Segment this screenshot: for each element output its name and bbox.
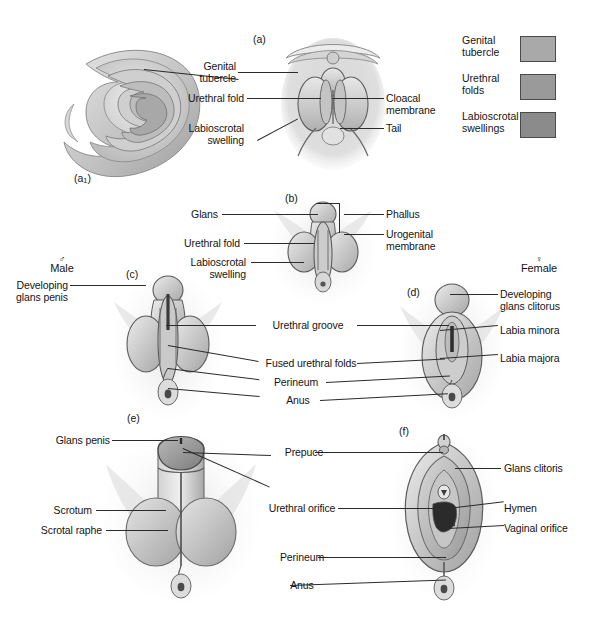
leader-line [318,557,446,558]
panel-letter-e: (e) [127,412,140,424]
bracket-line [316,203,340,204]
leader-line [96,510,166,511]
leader-line [338,508,448,509]
legend-label: Urethral folds [462,72,499,96]
anatomy-figure: (a1) (a) (b) (c) (d) (e) (f) ♂ Male ♀ Fe… [0,0,596,623]
label-perineum-ef: Perineum [272,551,332,563]
label-labia-majora: Labia majora [500,352,586,364]
legend-label: Labioscrotal swellings [462,110,519,134]
label-labioscrotal-swelling-b: Labioscrotal swelling [150,256,246,280]
illustration-panel-b [268,196,378,304]
panel-letter-a: (a) [253,33,266,45]
label-developing-glans-penis: Developing glans penis [0,279,68,303]
label-labia-minora: Labia minora [500,324,586,336]
legend-item-urethral-folds: Urethral folds [462,72,590,110]
label-hymen: Hymen [504,502,564,514]
legend-label: Genital tubercle [462,34,499,58]
leader-line [247,98,321,99]
label-tail: Tail [386,122,436,134]
label-labioscrotal-swelling-a: Labioscrotal swelling [150,122,244,146]
leader-line [251,262,304,263]
legend-swatch [520,74,556,100]
label-phallus: Phallus [386,208,448,220]
leader-line [70,285,146,286]
label-fused-urethral-folds: Fused urethral folds [252,357,370,369]
leader-line [450,294,498,295]
bracket-line [339,203,340,233]
legend-item-genital-tubercle: Genital tubercle [462,34,590,72]
leader-line [222,214,318,215]
panel-letter-d: (d) [407,286,420,298]
male-header: Male [42,262,82,274]
panel-letter-a1: (a1) [74,172,91,185]
label-urethral-fold-a: Urethral fold [158,92,244,104]
leader-line [332,98,384,99]
label-glans-clitoris: Glans clitoris [504,462,590,474]
leader-line [340,128,384,129]
label-urogenital-membrane: Urogenital membrane [386,228,472,252]
leader-line [244,243,314,244]
legend-swatch [520,112,556,138]
label-scrotum: Scrotum [26,504,92,516]
illustration-panel-e [96,424,266,604]
leader-line [455,468,501,469]
legend: Genital tubercle Urethral folds Labioscr… [462,34,590,148]
label-glans-b: Glans [160,208,218,220]
leader-line [166,325,256,326]
label-anus-ef: Anus [280,579,324,591]
legend-item-labioscrotal-swellings: Labioscrotal swellings [462,110,590,148]
label-vaginal-orifice: Vaginal orifice [504,522,594,534]
label-glans-penis: Glans penis [38,434,110,446]
illustration-panel-c [112,268,224,418]
legend-swatch [520,36,556,62]
label-scrotal-raphe: Scrotal raphe [16,524,102,536]
label-anus-cd: Anus [276,394,320,406]
illustration-panel-a [268,32,398,182]
leader-line [344,214,384,215]
leader-line [315,452,443,453]
label-genital-tubercle: Genital tubercle [158,60,236,84]
leader-line [238,72,298,73]
panel-letter-c: (c) [126,268,138,280]
label-prepuce: Prepuce [276,446,332,458]
leader-line [344,234,384,235]
label-urethral-fold-b: Urethral fold [148,237,240,249]
leader-line [112,440,178,441]
leader-line [106,530,168,531]
female-header: Female [514,262,564,274]
label-urethral-orifice: Urethral orifice [252,502,352,514]
label-perineum-cd: Perineum [266,376,326,388]
label-urethral-groove: Urethral groove [262,319,354,331]
panel-letter-f: (f) [399,425,409,437]
panel-letter-b: (b) [285,192,298,204]
label-developing-glans-clitorus: Developing glans clitorus [500,288,596,312]
leader-line [357,325,449,326]
